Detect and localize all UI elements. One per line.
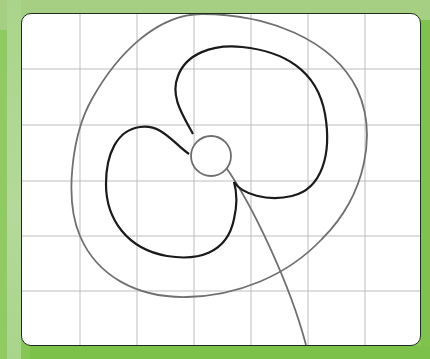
background-right-edge (421, 20, 430, 359)
background-left-strip (7, 0, 21, 359)
flower-drawing (22, 14, 420, 345)
diagram-canvas (0, 0, 430, 359)
flower-center (191, 136, 231, 176)
background-bottom-edge (30, 346, 430, 359)
drawing-card (21, 13, 421, 346)
background-left-edge (0, 30, 7, 359)
